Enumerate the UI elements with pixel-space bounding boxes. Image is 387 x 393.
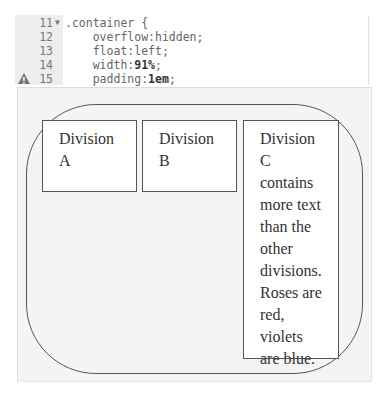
line-number: 13 (15, 44, 53, 58)
code-line-11[interactable]: 11 ▼ .container { (15, 16, 368, 30)
code-text: float:left; (65, 44, 169, 58)
division-b: Division B (142, 120, 237, 192)
property-value: 1em (148, 72, 169, 86)
code-line-14[interactable]: 14 width:91%; (15, 58, 368, 72)
chevron-down-icon[interactable]: ▼ (55, 16, 60, 30)
division-a: Division A (42, 120, 137, 192)
line-number: 12 (15, 30, 53, 44)
semicolon: ; (169, 72, 176, 86)
property-value: 91% (134, 58, 155, 72)
code-line-12[interactable]: 12 overflow:hidden; (15, 30, 368, 44)
code-line-13[interactable]: 13 float:left; (15, 44, 368, 58)
division-c: Division C contains more text than the o… (243, 120, 339, 359)
code-editor[interactable]: 11 ▼ .container { 12 overflow:hidden; 13… (15, 15, 369, 85)
line-number: 14 (15, 58, 53, 72)
code-text: .container { (65, 16, 148, 30)
code-text: overflow:hidden; (65, 30, 203, 44)
line-number: 15 (15, 72, 53, 86)
property: padding: (65, 72, 148, 86)
code-line-15[interactable]: ! 15 padding:1em; (15, 72, 368, 86)
code-text: padding:1em; (65, 72, 176, 86)
semicolon: ; (155, 58, 162, 72)
render-preview: Division A Division B Division C contain… (17, 87, 372, 382)
code-text: width:91%; (65, 58, 162, 72)
line-number: 11 (15, 16, 53, 30)
property: width: (65, 58, 134, 72)
